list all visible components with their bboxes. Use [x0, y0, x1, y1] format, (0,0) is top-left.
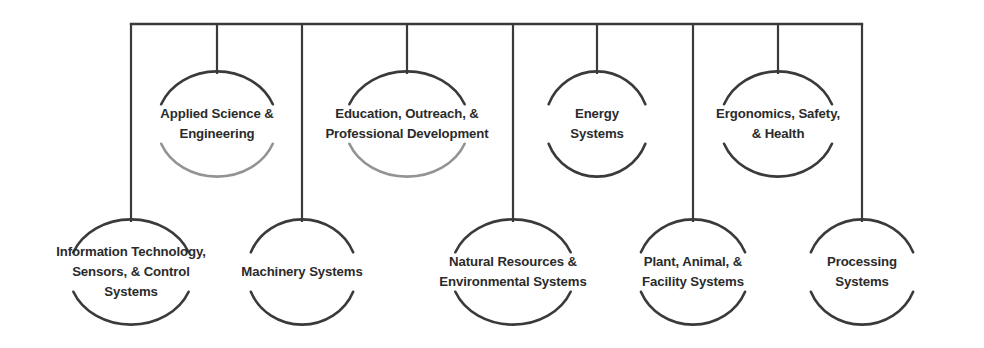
node-top-arc-plant-animal-facility-systems: [641, 219, 745, 252]
node-top-arc-machinery-systems: [251, 219, 353, 252]
node-bottom-arc-ergonomics-safety-health: [724, 144, 832, 177]
node-label-energy-systems: Energy Systems: [570, 104, 624, 144]
node-top-arc-processing-systems: [811, 219, 913, 252]
node-bottom-arc-machinery-systems: [251, 292, 353, 325]
node-label-information-technology-sensors-control-systems: Information Technology, Sensors, & Contr…: [56, 242, 206, 302]
node-bottom-arc-natural-resources-environmental-systems: [455, 292, 570, 325]
diagram-canvas: Applied Science & EngineeringEducation, …: [0, 0, 984, 348]
node-bottom-arc-plant-animal-facility-systems: [641, 292, 745, 325]
node-label-natural-resources-environmental-systems: Natural Resources & Environmental System…: [439, 252, 586, 292]
node-bottom-arc-education-outreach-professional-development: [349, 144, 464, 177]
node-top-arc-energy-systems: [549, 71, 646, 104]
node-label-plant-animal-facility-systems: Plant, Animal, & Facility Systems: [642, 252, 744, 292]
node-bottom-arc-processing-systems: [811, 292, 913, 325]
node-label-education-outreach-professional-development: Education, Outreach, & Professional Deve…: [325, 104, 488, 144]
node-label-ergonomics-safety-health: Ergonomics, Safety, & Health: [716, 104, 840, 144]
node-label-machinery-systems: Machinery Systems: [241, 262, 362, 282]
node-top-arc-natural-resources-environmental-systems: [455, 219, 570, 252]
node-bottom-arc-energy-systems: [549, 144, 646, 177]
node-top-arc-education-outreach-professional-development: [349, 71, 464, 104]
node-top-arc-ergonomics-safety-health: [724, 71, 832, 104]
node-top-arc-applied-science-engineering: [161, 71, 273, 104]
node-label-applied-science-engineering: Applied Science & Engineering: [160, 104, 273, 144]
node-label-processing-systems: Processing Systems: [801, 252, 923, 292]
node-bottom-arc-applied-science-engineering: [161, 144, 273, 177]
